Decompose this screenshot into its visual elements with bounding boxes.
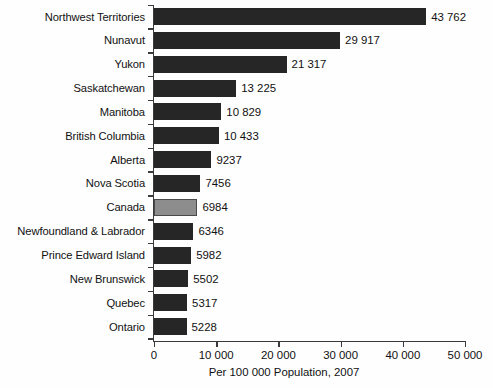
y-axis-tick [148, 267, 154, 268]
bar-row: Manitoba10 829 [154, 103, 465, 120]
x-axis-line [153, 341, 465, 342]
bar-value-label: 6984 [202, 201, 227, 213]
category-label: Newfoundland & Labrador [17, 225, 145, 237]
x-axis-tick-label: 0 [151, 349, 157, 361]
bar [154, 32, 340, 49]
bar-highlighted [154, 199, 197, 216]
y-axis-tick [148, 148, 154, 149]
bar-row: Saskatchewan13 225 [154, 80, 465, 97]
y-axis-tick [148, 100, 154, 101]
bar-row: Nunavut29 917 [154, 32, 465, 49]
y-axis-tick [148, 5, 154, 6]
bar-value-label: 5228 [192, 321, 217, 333]
bar [154, 56, 287, 73]
category-label: Alberta [110, 154, 145, 166]
category-label: Nova Scotia [86, 177, 145, 189]
bar-row: British Columbia10 433 [154, 127, 465, 144]
bar-value-label: 29 917 [345, 34, 380, 46]
x-axis-tick [341, 341, 342, 347]
x-axis-tick-label: 50 000 [448, 349, 483, 361]
x-axis-tick-label: 40 000 [385, 349, 420, 361]
x-axis-tick-label: 30 000 [323, 349, 358, 361]
y-axis-tick [148, 291, 154, 292]
category-label: Ontario [109, 321, 145, 333]
category-label: Canada [106, 201, 145, 213]
bar [154, 318, 187, 335]
y-axis-tick [148, 195, 154, 196]
bar-chart: Northwest Territories43 762Nunavut29 917… [0, 0, 493, 388]
bar [154, 294, 187, 311]
bar-value-label: 43 762 [431, 11, 466, 23]
y-axis-tick [148, 76, 154, 77]
bar [154, 127, 219, 144]
y-axis-tick [148, 243, 154, 244]
category-label: Nunavut [104, 34, 145, 46]
category-label: Manitoba [100, 106, 145, 118]
bar [154, 270, 188, 287]
x-axis-tick [216, 341, 217, 347]
bar [154, 103, 221, 120]
bar-value-label: 9237 [216, 154, 241, 166]
x-axis-title: Per 100 000 Population, 2007 [0, 366, 493, 378]
bar-value-label: 13 225 [241, 82, 276, 94]
x-axis-tick [465, 341, 466, 347]
bar-value-label: 5317 [192, 297, 217, 309]
x-axis-tick-label: 20 000 [261, 349, 296, 361]
category-label: British Columbia [65, 130, 145, 142]
y-axis-tick [148, 124, 154, 125]
bar-row: Canada6984 [154, 199, 465, 216]
bar-value-label: 6346 [198, 225, 223, 237]
bar [154, 151, 211, 168]
bar-value-label: 5982 [196, 249, 221, 261]
bar-row: Nova Scotia7456 [154, 175, 465, 192]
bar [154, 247, 191, 264]
bar [154, 8, 426, 25]
bar [154, 223, 193, 240]
bar-row: New Brunswick5502 [154, 270, 465, 287]
x-axis-tick [278, 341, 279, 347]
bar-value-label: 21 317 [292, 58, 327, 70]
bar-row: Ontario5228 [154, 318, 465, 335]
y-axis-tick [148, 52, 154, 53]
y-axis-tick [148, 171, 154, 172]
category-label: Yukon [114, 58, 145, 70]
category-label: Saskatchewan [73, 82, 145, 94]
bar-row: Prince Edward Island5982 [154, 247, 465, 264]
bar-value-label: 10 829 [226, 106, 261, 118]
x-axis-tick [403, 341, 404, 347]
y-axis-tick [148, 338, 154, 339]
bar-row: Alberta9237 [154, 151, 465, 168]
y-axis-tick [148, 219, 154, 220]
bar-value-label: 5502 [193, 273, 218, 285]
category-label: New Brunswick [70, 273, 145, 285]
y-axis-tick [148, 28, 154, 29]
bar [154, 175, 200, 192]
category-label: Northwest Territories [45, 11, 145, 23]
category-label: Prince Edward Island [41, 249, 145, 261]
bar-row: Yukon21 317 [154, 56, 465, 73]
bar-row: Northwest Territories43 762 [154, 8, 465, 25]
bar-row: Quebec5317 [154, 294, 465, 311]
x-axis-tick-label: 10 000 [199, 349, 234, 361]
category-label: Quebec [106, 297, 145, 309]
y-axis-tick [148, 315, 154, 316]
plot-area: Northwest Territories43 762Nunavut29 917… [154, 6, 465, 341]
bar-value-label: 10 433 [224, 130, 259, 142]
x-axis-tick [154, 341, 155, 347]
bar [154, 80, 236, 97]
bar-value-label: 7456 [205, 177, 230, 189]
bar-row: Newfoundland & Labrador6346 [154, 223, 465, 240]
